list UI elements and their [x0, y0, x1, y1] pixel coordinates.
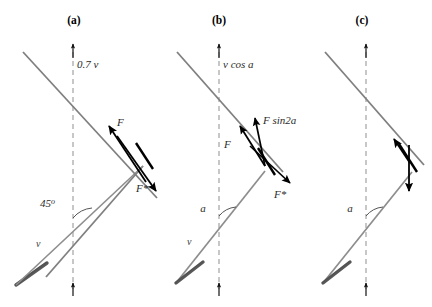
panel-a-label: (a): [67, 14, 81, 27]
panel-b-axis-label: v cos a: [223, 58, 254, 70]
panel-c-up-left-vector: [394, 139, 410, 163]
panel-c-surface-tick: [399, 144, 417, 172]
panel-c: (c) a: [323, 14, 424, 296]
panel-b-vector-F-star: [250, 146, 290, 183]
panel-c-angle-label: a: [347, 202, 353, 214]
panel-b-label: (b): [212, 14, 226, 27]
panel-b: (b) F F sin2a F* v cos a: [176, 14, 297, 296]
panel-a: (a) F F* 0.7 v 45o: [16, 14, 157, 296]
panel-a-incoming-label: v: [36, 238, 41, 249]
panel-c-label: (c): [356, 14, 369, 27]
panel-c-incoming-ray: [323, 172, 412, 283]
panel-a-incoming-ray: [46, 166, 143, 277]
panel-a-angle-label: 45o: [40, 197, 55, 210]
panel-b-incoming-ray: [176, 171, 265, 283]
panel-a-vector-F-star-label: F*: [135, 182, 149, 194]
panel-a-vector-F: [109, 126, 146, 182]
panel-a-axis-label: 0.7 v: [77, 58, 99, 70]
panel-a-outgoing-ray: [23, 52, 157, 198]
panel-a-incoming-ray-full: [16, 166, 143, 285]
panel-a-vector-F-label: F: [116, 116, 124, 128]
diagram-canvas: (a) F F* 0.7 v 45o: [0, 0, 432, 307]
panel-b-vector-F-label: F: [223, 138, 231, 150]
panel-b-vector-F-sin2a-label: F sin2a: [262, 114, 297, 126]
panel-b-angle-label: a: [200, 202, 206, 214]
panel-b-outgoing-ray: [177, 52, 283, 172]
panel-b-vector-F-star-label: F*: [273, 188, 287, 200]
panel-b-incoming-label: v: [187, 236, 192, 247]
physics-figure: (a) F F* 0.7 v 45o: [0, 0, 432, 307]
